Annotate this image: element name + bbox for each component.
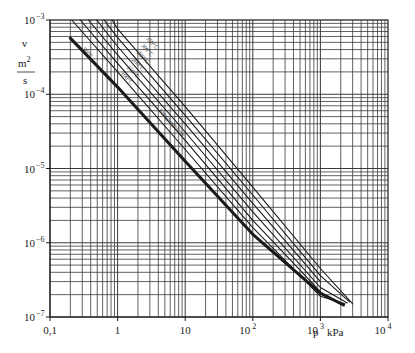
y-tick-label: 10−5	[24, 161, 45, 175]
x-unit: kPa	[327, 326, 344, 338]
y-tick-label: 10−7	[24, 309, 45, 323]
x-axis-label: p kPa	[313, 326, 344, 338]
x-symbol: p	[313, 326, 319, 338]
curves	[70, 20, 352, 305]
y-symbol: ν	[22, 37, 27, 49]
y-tick-label: 10−4	[24, 86, 45, 100]
curve-100-c	[72, 20, 345, 304]
curve-150-c	[80, 20, 320, 292]
y-axis-label: ν m2 s	[17, 37, 35, 86]
y-unit-denominator: s	[23, 74, 27, 86]
viscosity-chart: Sättigungslinie50°C100°C150°C200°C250°C3…	[0, 0, 415, 353]
x-tick-label: 102	[239, 322, 256, 336]
y-tick-label: 10−3	[24, 12, 45, 26]
x-tick-label: 0,1	[43, 324, 57, 336]
y-tick-label: 10−6	[24, 235, 45, 249]
grid-lines	[50, 20, 388, 317]
y-unit-numerator: m2	[18, 55, 31, 69]
x-tick-label: 104	[375, 322, 392, 336]
x-tick-label: 10	[180, 324, 192, 336]
x-tick-label: 1	[115, 324, 121, 336]
